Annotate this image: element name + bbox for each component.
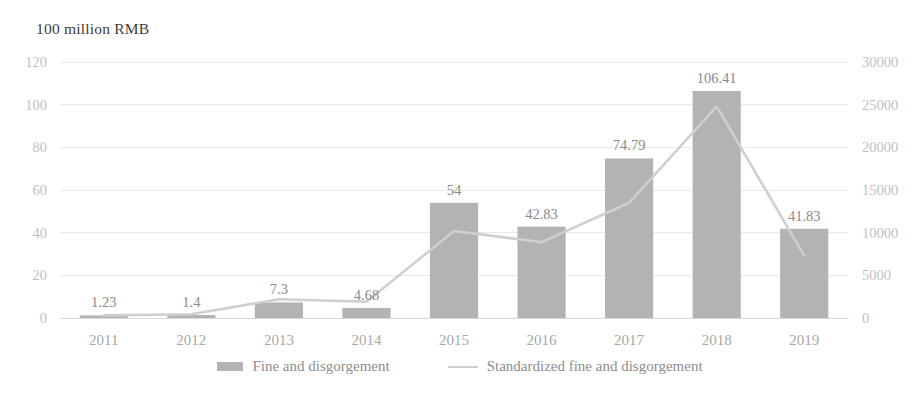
left-axis-tick-labels: 020406080100120 — [25, 54, 47, 326]
x-axis-tick-label: 2018 — [702, 332, 732, 348]
bar-data-label: 42.83 — [525, 206, 558, 222]
x-axis-category-labels: 201120122013201420152016201720182019 — [89, 332, 819, 348]
bar[interactable] — [430, 203, 478, 318]
x-axis-tick-label: 2016 — [527, 332, 558, 348]
x-axis-tick-label: 2019 — [789, 332, 819, 348]
bar-data-label: 74.79 — [613, 137, 646, 153]
y2-axis-tick-label: 15000 — [862, 182, 898, 198]
y-axis-tick-label: 120 — [25, 54, 47, 70]
y-axis-tick-label: 60 — [33, 182, 48, 198]
legend-item-standardized-fine-and-disgorgement[interactable]: Standardized fine and disgorgement — [448, 358, 703, 375]
bar-data-label: 106.41 — [697, 70, 737, 86]
bar[interactable] — [342, 308, 390, 318]
x-axis-tick-label: 2017 — [614, 332, 645, 348]
x-axis-tick-label: 2015 — [439, 332, 469, 348]
y2-axis-tick-label: 0 — [862, 310, 869, 326]
legend-label-standardized-fine-and-disgorgement: Standardized fine and disgorgement — [487, 358, 703, 375]
y2-axis-tick-label: 10000 — [862, 225, 898, 241]
y2-axis-tick-label: 5000 — [862, 267, 891, 283]
line-swatch-icon — [448, 366, 478, 368]
bar-swatch-icon — [217, 362, 243, 371]
y-axis-tick-label: 100 — [25, 97, 47, 113]
y2-axis-tick-label: 30000 — [862, 54, 898, 70]
chart-plot-area: 020406080100120 050001000015000200002500… — [0, 0, 920, 360]
bar-data-label: 7.3 — [270, 281, 288, 297]
bar-data-label: 1.23 — [91, 294, 116, 310]
x-axis-tick-label: 2011 — [89, 332, 118, 348]
y-axis-tick-label: 0 — [40, 310, 47, 326]
bar-series-fine-and-disgorgement — [80, 91, 829, 318]
y-axis-tick-label: 80 — [33, 139, 48, 155]
bar-data-label: 41.83 — [788, 208, 821, 224]
bar-data-label: 1.4 — [182, 294, 201, 310]
y2-axis-tick-label: 25000 — [862, 97, 898, 113]
x-axis-tick-label: 2013 — [264, 332, 294, 348]
bar[interactable] — [780, 229, 828, 318]
x-axis-tick-label: 2014 — [351, 332, 382, 348]
y2-axis-tick-label: 20000 — [862, 139, 898, 155]
chart-legend: Fine and disgorgement Standardized fine … — [0, 358, 920, 375]
legend-item-fine-and-disgorgement[interactable]: Fine and disgorgement — [217, 358, 389, 375]
bar-data-label: 54 — [447, 182, 462, 198]
bar-data-label: 4.68 — [354, 287, 379, 303]
y-axis-tick-label: 40 — [33, 225, 48, 241]
x-axis-tick-label: 2012 — [176, 332, 206, 348]
bar[interactable] — [255, 302, 303, 318]
y-axis-tick-label: 20 — [33, 267, 48, 283]
chart-container: 100 million RMB 020406080100120 05000100… — [0, 0, 920, 410]
right-axis-tick-labels: 050001000015000200002500030000 — [862, 54, 898, 326]
legend-label-fine-and-disgorgement: Fine and disgorgement — [252, 358, 389, 375]
